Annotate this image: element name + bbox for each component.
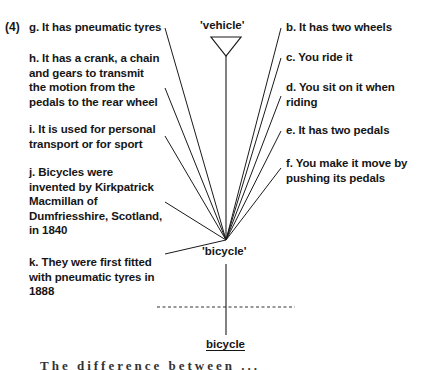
feature-k: k. They were first fitted with pneumatic… xyxy=(29,255,155,299)
bicycle-node: 'bicycle' xyxy=(202,245,246,257)
feature-h: h. It has a crank, a chain and gears to … xyxy=(29,51,159,109)
feature-d: d. You sit on it when riding xyxy=(286,80,395,109)
feature-g: g. It has pneumatic tyres xyxy=(29,20,161,35)
vehicle-node: 'vehicle' xyxy=(200,19,244,31)
feature-f: f. You make it move by pushing its pedal… xyxy=(286,156,407,185)
feature-b: b. It has two wheels xyxy=(286,20,392,35)
feature-i: i. It is used for personal transport or … xyxy=(29,122,155,151)
feature-c: c. You ride it xyxy=(286,50,353,65)
feature-j: j. Bicycles were invented by Kirkpatrick… xyxy=(29,165,162,238)
vehicle-triangle-icon xyxy=(211,37,241,56)
bicycle-word: bicycle xyxy=(206,338,245,350)
figure-number: (4) xyxy=(5,20,20,34)
feature-e: e. It has two pedals xyxy=(286,123,389,138)
cut-off-text: The difference between ... xyxy=(40,358,260,370)
